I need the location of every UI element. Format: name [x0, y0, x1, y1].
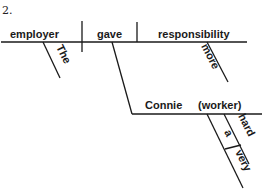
adverb-connector-line	[225, 145, 241, 149]
verb-word: gave	[97, 28, 122, 40]
appositive-word: (worker)	[198, 99, 242, 111]
adjective-modifier-word: hard	[236, 111, 258, 138]
indirect-object-word: Connie	[145, 99, 182, 111]
adverb-modifier-word: very	[233, 147, 254, 173]
subject-modifier-word: The	[54, 43, 73, 66]
object-modifier-word: more	[199, 41, 222, 70]
subject-word: employer	[10, 28, 60, 40]
direct-object-word: responsibility	[158, 28, 230, 40]
problem-number: 2.	[2, 4, 13, 17]
sentence-diagram: 2. employer gave responsibility The more…	[0, 0, 264, 196]
indirect-object-slant	[112, 42, 132, 114]
